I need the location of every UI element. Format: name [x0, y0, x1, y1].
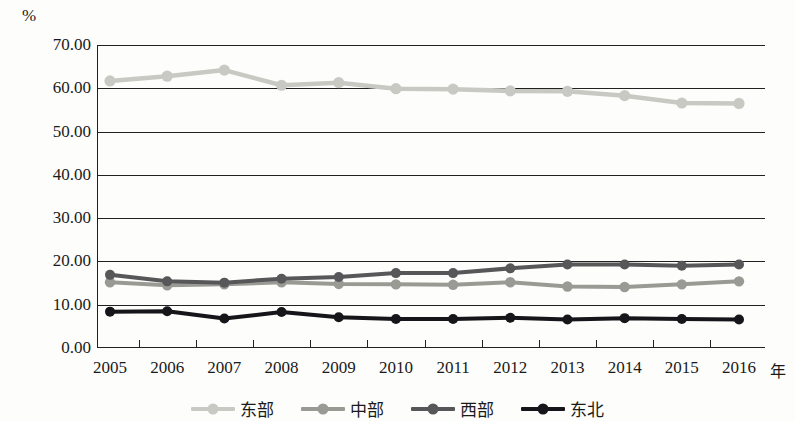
legend-swatch-icon: [301, 402, 345, 416]
data-point: [162, 306, 172, 316]
y-axis-tick-label: 40.00: [53, 166, 91, 183]
x-axis-line: [97, 347, 765, 348]
data-point: [562, 281, 572, 291]
data-point: [448, 314, 458, 324]
data-point: [219, 278, 229, 288]
x-axis-tick-label: 2012: [493, 358, 527, 378]
data-point: [105, 270, 115, 280]
y-axis-line: [97, 45, 98, 348]
data-point: [734, 259, 744, 269]
data-point: [619, 90, 630, 101]
data-point: [391, 268, 401, 278]
data-point: [505, 85, 516, 96]
legend-dot: [427, 403, 438, 414]
data-point: [448, 268, 458, 278]
legend-item-东部[interactable]: 东部: [191, 396, 275, 421]
data-point: [562, 314, 572, 324]
legend-label: 西部: [460, 396, 495, 421]
data-point: [447, 84, 458, 95]
y-axis-tick-label: 50.00: [53, 123, 91, 140]
data-point: [562, 86, 573, 97]
data-point: [333, 77, 344, 88]
x-axis-tick-label: 2010: [379, 358, 413, 378]
data-point: [620, 313, 630, 323]
data-point: [677, 279, 687, 289]
data-point: [562, 259, 572, 269]
x-axis-tick: [367, 340, 368, 348]
data-point: [505, 313, 515, 323]
data-point: [219, 314, 229, 324]
data-point: [734, 276, 744, 286]
data-point: [733, 98, 744, 109]
x-axis-tick: [539, 340, 540, 348]
x-axis-tick: [710, 340, 711, 348]
line-chart: % 0.0010.0020.0030.0040.0050.0060.0070.0…: [0, 0, 795, 421]
legend-swatch-icon: [521, 402, 565, 416]
data-point: [619, 282, 629, 292]
x-axis-tick-label: 2009: [322, 358, 356, 378]
x-axis-tick-label: 2008: [265, 358, 299, 378]
data-point: [505, 263, 515, 273]
x-axis-tick: [425, 340, 426, 348]
x-axis-unit-label: 年: [770, 358, 786, 382]
data-point: [505, 277, 515, 287]
data-point: [676, 97, 687, 108]
chart-legend: 东部中部西部东北: [0, 396, 795, 421]
data-point: [277, 307, 287, 317]
x-axis-tick: [482, 340, 483, 348]
x-axis-tick: [253, 340, 254, 348]
series-line: [110, 70, 739, 103]
legend-label: 东北: [570, 396, 605, 421]
legend-swatch-icon: [191, 402, 235, 416]
legend-item-东北[interactable]: 东北: [521, 396, 605, 421]
x-axis-tick-label: 2014: [608, 358, 642, 378]
data-point: [219, 65, 230, 76]
series-line: [110, 311, 739, 319]
data-point: [162, 71, 173, 82]
series-东北: [105, 306, 744, 324]
x-axis-tick: [596, 340, 597, 348]
y-axis-tick-label: 20.00: [53, 252, 91, 269]
data-point: [391, 279, 401, 289]
legend-dot: [537, 403, 548, 414]
x-axis-tick: [196, 340, 197, 348]
x-axis-tick-label: 2005: [93, 358, 127, 378]
series-中部: [105, 276, 744, 292]
y-axis-tick-label: 60.00: [53, 79, 91, 96]
legend-label: 东部: [240, 396, 275, 421]
x-axis-tick-label: 2011: [436, 358, 469, 378]
data-point: [390, 83, 401, 94]
legend-dot: [207, 403, 218, 414]
data-point: [620, 259, 630, 269]
data-point: [162, 276, 172, 286]
x-axis-tick-label: 2006: [150, 358, 184, 378]
data-point: [677, 261, 687, 271]
data-point: [334, 272, 344, 282]
legend-item-西部[interactable]: 西部: [411, 396, 495, 421]
legend-label: 中部: [350, 396, 385, 421]
data-point: [277, 274, 287, 284]
x-axis-tick: [653, 340, 654, 348]
data-point: [391, 314, 401, 324]
series-东部: [104, 65, 744, 110]
data-point: [448, 280, 458, 290]
x-axis-tick-label: 2016: [722, 358, 756, 378]
plot-area: [97, 45, 765, 348]
data-point: [677, 314, 687, 324]
data-point: [734, 314, 744, 324]
data-point: [276, 80, 287, 91]
y-axis-unit-label: %: [22, 6, 37, 26]
legend-item-中部[interactable]: 中部: [301, 396, 385, 421]
y-axis-tick-label: 0.00: [61, 339, 91, 356]
y-axis-tick-label: 10.00: [53, 296, 91, 313]
x-axis-tick-label: 2007: [207, 358, 241, 378]
x-axis-tick: [310, 340, 311, 348]
data-point: [334, 312, 344, 322]
legend-dot: [317, 403, 328, 414]
data-point: [104, 75, 115, 86]
series-layer: [97, 45, 765, 348]
y-axis-tick-label: 30.00: [53, 209, 91, 226]
legend-swatch-icon: [411, 402, 455, 416]
y-axis-tick-label: 70.00: [53, 36, 91, 53]
x-axis-tick-label: 2015: [665, 358, 699, 378]
